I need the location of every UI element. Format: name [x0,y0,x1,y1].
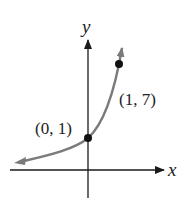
curve-left-arrow-icon [14,157,26,165]
point-1-7-label: (1, 7) [119,90,156,109]
x-axis-label: x [167,159,177,180]
y-axis-label: y [80,16,91,37]
point-0-1 [84,134,92,142]
exponential-curve [24,48,122,161]
point-1-7 [115,60,123,68]
graph: y x (0, 1) (1, 7) [0,0,185,202]
point-0-1-label: (0, 1) [35,119,72,138]
